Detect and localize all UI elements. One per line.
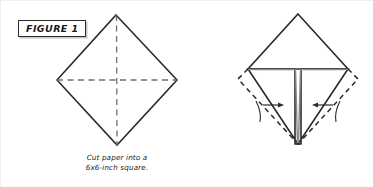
upper-diamond-body [248, 14, 348, 69]
fold-arrow-left-arc [256, 101, 261, 122]
instruction-diagram-page: FIGURE 1 Cut paper into a 6x6-inch squar… [0, 0, 373, 187]
figure-1-panel: FIGURE 1 Cut paper into a 6x6-inch squar… [1, 1, 187, 187]
figure-1-caption-line-1: Cut paper into a [29, 153, 205, 163]
fold-arrow-right-arc [336, 101, 341, 122]
figure-1-caption-line-2: 6x6-inch square. [29, 163, 205, 173]
figure-2-drawing [187, 1, 373, 187]
figure-2-panel: FIGURE 2 Fold over bottom left and right… [187, 1, 373, 187]
figure-1-label: FIGURE 1 [18, 20, 86, 37]
left-folded-flap [248, 69, 298, 144]
right-folded-flap [298, 69, 348, 144]
figure-1-caption: Cut paper into a 6x6-inch square. [29, 153, 205, 173]
